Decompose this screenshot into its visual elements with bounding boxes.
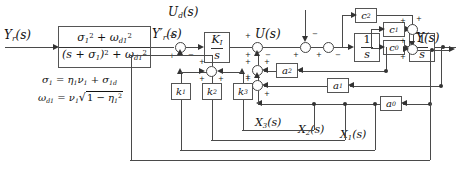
arrow-into-a1 <box>348 82 354 88</box>
wire-x2-feedback-up <box>345 103 346 140</box>
label-disturbance-input: Ud(s) <box>168 5 198 20</box>
sign-sum6-left-plus: + <box>400 38 406 45</box>
wire-k3-down <box>243 100 244 130</box>
equation-omega-d1: ωd1 = ν1√1 − η12 <box>38 91 123 104</box>
gain-block-a0: a0 <box>380 96 402 111</box>
wire-k-bus-right <box>222 72 243 73</box>
wire-k1-down <box>181 100 182 150</box>
wire-x1-feedback-horizontal <box>180 150 375 151</box>
wire-sum3-to-sum4 <box>311 47 323 48</box>
summing-junction-plant-input <box>323 42 334 53</box>
sign-sum4-left-plus: + <box>316 52 322 59</box>
arrow-output <box>449 46 455 52</box>
prefilter-block: σ12 + ωd12 (s + σ1)2 + ωd12 <box>58 26 151 68</box>
wire-outer-feedback-top <box>130 55 181 56</box>
label-output: Y(s) <box>416 31 439 45</box>
sign-sum8-right-plus: + <box>264 91 270 98</box>
label-filtered-reference: Y′r(s) <box>152 27 182 42</box>
sign-sum7-right-plus: + <box>264 59 270 66</box>
sign-sum6-bottom-plus: + <box>400 54 406 61</box>
equation-sigma1: σ1 = η1ν1 + σ1d <box>42 74 117 86</box>
wire-integral-gain-to-sum2 <box>230 47 252 48</box>
sign-sum1-top-plus: + <box>169 33 175 40</box>
label-state-x3: X3(s) <box>255 116 281 130</box>
wire-outer-feedback-left <box>131 55 132 160</box>
node-a1-tap <box>439 84 443 88</box>
gain-block-k3: k3 <box>233 83 253 100</box>
gain-block-a1: a1 <box>327 78 349 93</box>
wire-output <box>418 50 451 51</box>
label-reference-input: Yr(s) <box>4 28 31 43</box>
wire-x3-to-a2 <box>299 71 387 72</box>
wire-x1-feedback-up <box>375 103 376 150</box>
wire-a0-to-sum8 <box>258 104 380 105</box>
sign-sum3-left-plus: + <box>293 52 299 59</box>
wire-x2-down <box>441 47 442 86</box>
arrow-into-sum9-right <box>217 68 223 74</box>
wire-c2-to-sum5 <box>377 15 412 16</box>
sign-sum2-left-plus: + <box>245 33 251 40</box>
wire-output-to-a0 <box>403 104 431 105</box>
wire-disturbance-down <box>305 10 306 38</box>
wire-x2-up-to-c1 <box>371 29 372 48</box>
wire-x3-up-to-c2 <box>342 15 343 48</box>
wire-prefilter-to-sum1 <box>151 47 174 48</box>
sign-sum9-top-plus: + <box>199 59 205 66</box>
integral-gain-block: KI s <box>204 32 230 63</box>
arrow-sum7-into-sum2 <box>254 50 260 56</box>
block-diagram-canvas: Yr(s) σ12 + ωd12 (s + σ1)2 + ωd12 σ1 = η… <box>0 0 456 178</box>
wire-k2-down <box>212 100 213 140</box>
sign-sum5-left-plus: + <box>400 18 406 25</box>
arrow-into-a2 <box>297 67 303 73</box>
wire-x3-feedback-up <box>314 103 315 130</box>
gain-block-k2: k2 <box>202 83 222 100</box>
node-x1-feedback <box>373 102 377 106</box>
sign-sum4-right-minus: − <box>335 52 341 59</box>
label-control-signal: U(s) <box>255 27 281 41</box>
gain-block-c2: c2 <box>355 8 377 23</box>
wire-outer-feedback-right <box>430 103 431 160</box>
wire-x2-to-a1 <box>350 86 442 87</box>
node-a2-tap <box>384 69 388 73</box>
wire-output-down-to-a0 <box>430 49 431 104</box>
sign-sum3-top-minus: − <box>312 31 318 38</box>
sign-sum7-left-plus: + <box>245 59 251 66</box>
summing-junction-state-feedback <box>206 66 217 77</box>
sign-sum5-top-plus: + <box>416 16 422 23</box>
wire-sum2-to-sum3 <box>263 47 300 48</box>
sign-sum8-left-plus: + <box>245 74 251 81</box>
wire-x3-feedback-horizontal <box>242 130 314 131</box>
sign-sum9-left-plus: + <box>199 76 205 83</box>
sign-sum9-right-plus: + <box>218 76 224 83</box>
arrow-sum8-into-sum7 <box>254 72 260 78</box>
arrow-c0-into-sum6 <box>403 46 409 52</box>
wire-a1-to-sum8 <box>264 86 327 87</box>
gain-block-k1: k1 <box>171 83 191 100</box>
arrow-into-c1 <box>379 26 385 32</box>
node-x3-feedback <box>312 102 316 106</box>
arrow-into-sum9-left <box>199 68 205 74</box>
arrow-into-c2 <box>351 12 357 18</box>
wire-a0-up-into-sum8 <box>258 91 259 104</box>
arrow-into-a0 <box>401 100 407 106</box>
wire-sum9-up <box>212 55 213 66</box>
wire-ref-to-prefilter <box>5 47 55 48</box>
wire-x2-feedback-horizontal <box>211 140 345 141</box>
summing-junction-disturbance <box>300 42 311 53</box>
arrow-into-c0 <box>379 44 385 50</box>
wire-x3-down <box>386 47 387 71</box>
node-x2-feedback <box>343 102 347 106</box>
wire-sum9-to-sum1-horizontal <box>181 55 212 56</box>
summing-junction-state-lower <box>252 80 263 91</box>
gain-block-a2: a2 <box>276 63 298 78</box>
wire-outer-feedback-bottom <box>130 160 430 161</box>
